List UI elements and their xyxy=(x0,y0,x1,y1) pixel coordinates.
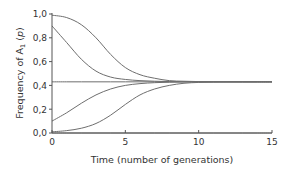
series-line xyxy=(52,82,272,121)
series-line xyxy=(52,82,272,132)
y-tick-label: 0,6 xyxy=(33,57,48,67)
y-axis-label-close-paren: ) xyxy=(14,27,25,31)
x-axis-label: Time (number of generations) xyxy=(90,154,234,165)
y-tick-label: 1,0 xyxy=(33,9,48,19)
x-tick-label: 15 xyxy=(266,137,277,147)
y-axis-label-main: Frequency of A xyxy=(14,47,25,118)
line-chart: 0,00,20,40,60,81,0 051015 Time (number o… xyxy=(0,0,291,176)
x-tick-label: 5 xyxy=(122,137,128,147)
y-tick-label: 0,8 xyxy=(33,33,48,43)
y-axis-label: Frequency of A1 (p) xyxy=(14,27,27,118)
y-tick-label: 0,2 xyxy=(33,105,47,115)
y-axis-label-open-paren: ( xyxy=(14,37,25,44)
x-tick-label: 10 xyxy=(193,137,205,147)
y-tick-label: 0,4 xyxy=(33,81,48,91)
y-tick-label: 0,0 xyxy=(33,128,48,138)
x-tick-label: 0 xyxy=(49,137,55,147)
series-line xyxy=(52,26,272,82)
series-line xyxy=(52,15,272,82)
axes xyxy=(52,13,272,133)
allele-frequency-curves xyxy=(52,15,272,133)
y-ticks: 0,00,20,40,60,81,0 xyxy=(33,9,52,138)
y-axis-label-variable: p xyxy=(14,31,25,38)
